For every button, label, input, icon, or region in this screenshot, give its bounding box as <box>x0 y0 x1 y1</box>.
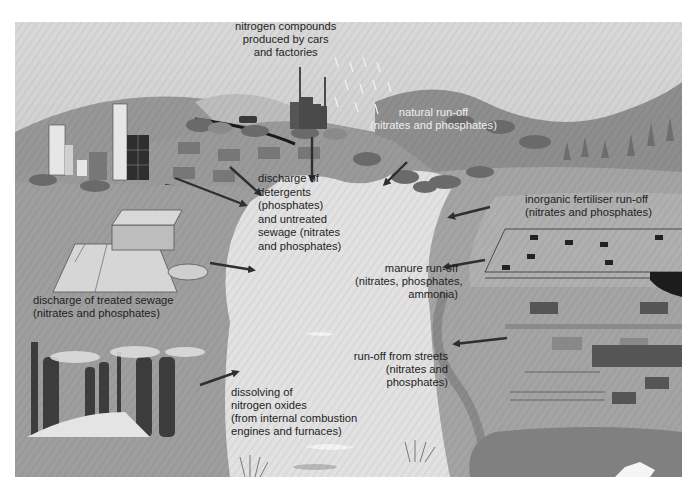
label-nitrogen-compounds: nitrogen compounds produced by cars and … <box>235 22 336 59</box>
label-fertiliser-runoff: inorganic fertiliser run-off (nitrates a… <box>525 193 652 219</box>
label-natural-runoff: natural run-off (nitrates and phosphates… <box>370 106 497 132</box>
label-detergents: discharge of detergents (phosphates) and… <box>258 172 341 253</box>
eutrophication-diagram: nitrogen compounds produced by cars and … <box>15 22 682 477</box>
label-manure-runoff: manure run-off (nitrates, phosphates, am… <box>355 262 458 301</box>
car <box>239 116 257 123</box>
label-nitrogen-oxides: dissolving of nitrogen oxides (from inte… <box>231 386 357 438</box>
label-street-runoff: run-off from streets (nitrates and phosp… <box>345 350 448 389</box>
label-treated-sewage: discharge of treated sewage (nitrates an… <box>33 294 174 320</box>
